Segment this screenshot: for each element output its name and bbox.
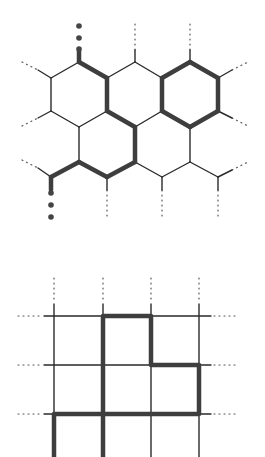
hex-highlighted-path [51, 50, 218, 190]
hex-edge [162, 162, 190, 177]
lattice-diagram [0, 0, 265, 457]
path-end-dot [76, 35, 82, 41]
square-highlighted-path [54, 316, 199, 457]
hex-edge [79, 111, 107, 127]
hex-edge [135, 111, 162, 127]
hex-edge [135, 162, 162, 177]
hex-edge [51, 62, 79, 78]
hexagonal-lattice [22, 23, 248, 220]
square-continuation-dots [18, 278, 238, 414]
hex-highlighted-edge [190, 111, 218, 127]
hex-edge [135, 62, 162, 78]
path-end-dot [76, 23, 82, 29]
hex-highlighted-edge [162, 111, 190, 127]
square-grid-lines [44, 304, 211, 457]
square-lattice [18, 278, 238, 457]
path-end-dot [48, 190, 54, 196]
hex-edge [51, 111, 79, 127]
hex-highlighted-edge [107, 162, 135, 177]
path-end-dot [48, 214, 54, 220]
hex-edge [190, 162, 218, 177]
hex-highlighted-edge [162, 62, 190, 78]
hex-highlighted-edge [79, 62, 107, 78]
path-end-dot [48, 202, 54, 208]
path-end-dot [76, 46, 82, 52]
lattice-figure [0, 0, 265, 457]
hex-highlighted-edge [190, 62, 218, 78]
hex-edge [107, 62, 135, 78]
hex-continuation-dots [22, 24, 248, 216]
hex-highlighted-edge [107, 111, 135, 127]
hex-highlighted-edge [51, 162, 79, 177]
hex-highlighted-edge [79, 162, 107, 177]
